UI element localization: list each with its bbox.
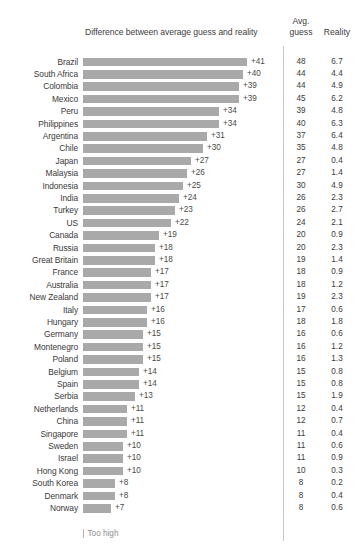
cell-avg-guess: 48 [286,57,316,66]
table-row: Philippines+34406.3 [0,118,360,130]
bar-value-label: +15 [147,342,161,351]
table-row: Serbia+13151.9 [0,391,360,403]
country-label: New Zealand [0,292,78,302]
cell-reality: 0.2 [318,478,356,487]
cell-reality: 2.1 [318,218,356,227]
difference-bar [83,70,243,79]
table-row: Brazil+41486.7 [0,56,360,68]
cell-avg-guess: 12 [286,404,316,413]
cell-avg-guess: 17 [286,305,316,314]
country-label: Chile [0,143,78,153]
country-label: Hong Kong [0,466,78,476]
country-label: Indonesia [0,181,78,191]
country-label: Turkey [0,205,78,215]
table-row: Australia+17181.2 [0,279,360,291]
bar-value-label: +7 [115,503,124,512]
bar-fill [83,169,187,178]
cell-avg-guess: 11 [286,453,316,462]
bar-value-label: +25 [187,181,201,190]
bar-fill [83,306,147,315]
country-label: Singapore [0,429,78,439]
difference-bar [83,392,135,401]
difference-bar [83,504,111,513]
bar-value-label: +8 [119,491,128,500]
table-row: Norway+780.6 [0,502,360,514]
bar-fill [83,504,111,513]
table-row: Great Britain+18191.4 [0,254,360,266]
cell-avg-guess: 39 [286,106,316,115]
table-row: South Africa+40444.4 [0,68,360,80]
difference-bar [83,430,127,439]
cell-reality: 0.8 [318,367,356,376]
country-label: Mexico [0,94,78,104]
bar-value-label: +26 [191,168,205,177]
bar-fill [83,318,147,327]
table-row: Malaysia+26271.4 [0,168,360,180]
bar-fill [83,343,143,352]
difference-bar [83,293,151,302]
difference-bar [83,343,143,352]
bar-fill [83,120,219,129]
cell-reality: 6.3 [318,119,356,128]
difference-bar [83,58,247,67]
cell-reality: 0.4 [318,156,356,165]
difference-bar [83,120,219,129]
bar-fill [83,467,123,476]
cell-avg-guess: 45 [286,94,316,103]
bar-value-label: +10 [127,466,141,475]
cell-reality: 0.6 [318,441,356,450]
table-row: Germany+15160.6 [0,329,360,341]
bar-fill [83,95,239,104]
country-label: Canada [0,230,78,240]
bar-value-label: +16 [151,305,165,314]
cell-avg-guess: 8 [286,503,316,512]
cell-reality: 0.4 [318,404,356,413]
cell-reality: 4.8 [318,106,356,115]
cell-reality: 0.8 [318,379,356,388]
cell-avg-guess: 18 [286,317,316,326]
bar-value-label: +34 [223,106,237,115]
table-row: Spain+14150.8 [0,378,360,390]
bar-value-label: +14 [143,367,157,376]
table-row: Hungary+16181.8 [0,316,360,328]
table-row: US+22242.1 [0,217,360,229]
bar-value-label: +34 [223,119,237,128]
cell-reality: 4.9 [318,81,356,90]
bar-fill [83,330,143,339]
difference-bar [83,107,219,116]
bar-fill [83,479,115,488]
cell-reality: 2.7 [318,205,356,214]
country-label: Spain [0,379,78,389]
cell-avg-guess: 26 [286,193,316,202]
cell-avg-guess: 35 [286,143,316,152]
country-label: Philippines [0,119,78,129]
cell-reality: 4.4 [318,69,356,78]
bar-fill [83,206,175,215]
bar-value-label: +15 [147,354,161,363]
cell-reality: 4.9 [318,181,356,190]
difference-bar [83,467,123,476]
cell-avg-guess: 44 [286,81,316,90]
cell-avg-guess: 37 [286,131,316,140]
cell-avg-guess: 27 [286,168,316,177]
cell-reality: 2.3 [318,193,356,202]
cell-avg-guess: 20 [286,230,316,239]
bar-fill [83,392,135,401]
cell-avg-guess: 8 [286,478,316,487]
difference-bar [83,182,183,191]
bar-fill [83,492,115,501]
bar-fill [83,442,123,451]
cell-reality: 0.7 [318,416,356,425]
bar-value-label: +11 [131,416,144,425]
difference-bar [83,206,175,215]
bar-fill [83,256,155,265]
country-label: Russia [0,243,78,253]
cell-reality: 1.2 [318,280,356,289]
bar-fill [83,157,191,166]
cell-reality: 0.4 [318,491,356,500]
table-row: Belgium+14150.8 [0,366,360,378]
country-label: China [0,416,78,426]
table-row: Singapore+11110.4 [0,428,360,440]
difference-bar [83,368,139,377]
country-label: Colombia [0,81,78,91]
